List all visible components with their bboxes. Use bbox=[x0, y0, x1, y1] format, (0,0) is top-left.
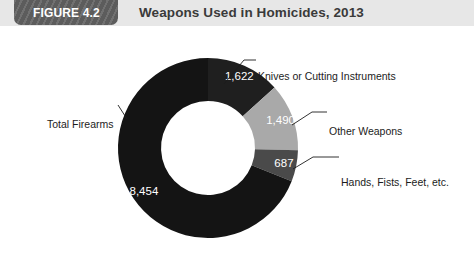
donut-slice-value: 8,454 bbox=[130, 185, 159, 197]
figure-number-label: FIGURE 4.2 bbox=[33, 5, 100, 20]
callout-label-other-weapons: Other Weapons bbox=[329, 125, 402, 137]
figure-header-band: FIGURE 4.2 Weapons Used in Homicides, 20… bbox=[0, 0, 474, 26]
figure-number-badge: FIGURE 4.2 bbox=[14, 0, 118, 25]
leader-line-other-weapons bbox=[292, 112, 327, 125]
callout-label-total-firearms: Total Firearms bbox=[47, 118, 114, 130]
donut-chart: 1,6221,4906878,454 Knives or Cutting Ins… bbox=[0, 26, 474, 255]
donut-slice-group bbox=[118, 58, 298, 238]
figure-title: Weapons Used in Homicides, 2013 bbox=[139, 0, 364, 25]
leader-line-hands bbox=[293, 157, 339, 169]
donut-chart-svg: 1,6221,4906878,454 bbox=[0, 26, 474, 255]
donut-slice-value: 1,490 bbox=[266, 114, 295, 126]
donut-slice-value: 687 bbox=[274, 157, 293, 169]
donut-slice-value: 1,622 bbox=[225, 70, 254, 82]
callout-label-knives: Knives or Cutting Instruments bbox=[258, 70, 396, 82]
callout-label-hands: Hands, Fists, Feet, etc. bbox=[341, 176, 449, 188]
